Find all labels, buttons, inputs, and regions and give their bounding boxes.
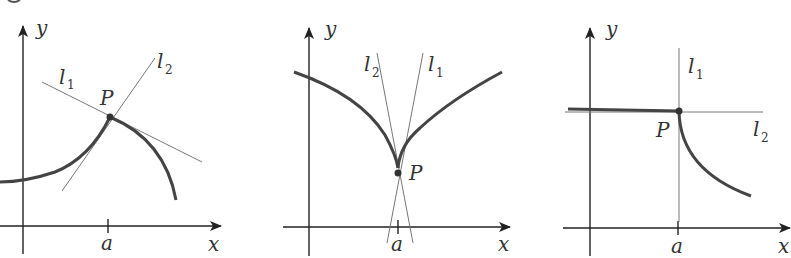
line-label-l2: l: [157, 49, 163, 73]
tick-label-a: a: [101, 231, 113, 255]
point-label-p: P: [99, 86, 114, 110]
panel-2: y x a P l 2 l 1: [283, 17, 510, 256]
curve-right-branch: [398, 72, 502, 168]
line-label-l2: l: [364, 52, 370, 76]
line-label-l1: l: [428, 52, 434, 76]
tick-label-a: a: [391, 232, 403, 256]
line-label-l2-subscript: 2: [372, 66, 380, 80]
tangent-line-l2: [377, 53, 413, 243]
panel-1: y x a P l 1 l 2: [0, 16, 221, 256]
curve-left-branch: [0, 117, 110, 182]
x-axis-label: x: [778, 234, 789, 258]
caption-fragment: [8, 0, 20, 2]
figure-canvas: y x a P l 1 l 2 y x a P l 2 l 1: [0, 0, 791, 258]
line-label-l1-subscript: 1: [67, 78, 75, 92]
line-label-l1: l: [59, 65, 65, 89]
curve-right-branch: [110, 117, 176, 200]
line-label-l2-subscript: 2: [761, 131, 769, 145]
point-p: [676, 108, 683, 115]
point-p: [107, 114, 114, 121]
y-axis-label: y: [324, 17, 337, 41]
line-label-l2: l: [753, 117, 759, 141]
point-label-p: P: [408, 161, 423, 185]
curve-left-branch: [568, 109, 679, 111]
panel-3: y x a P l 1 l 2: [563, 17, 790, 258]
line-label-l2-subscript: 2: [165, 63, 173, 77]
tick-label-a: a: [671, 234, 683, 258]
line-label-l1: l: [688, 54, 694, 78]
line-label-l1-subscript: 1: [696, 68, 704, 82]
curve-right-branch: [679, 111, 751, 196]
y-axis-label: y: [605, 17, 618, 41]
x-axis-label: x: [208, 232, 219, 256]
tangent-line-l2: [62, 58, 155, 191]
x-axis-label: x: [498, 232, 509, 256]
point-p: [395, 170, 402, 177]
line-label-l1-subscript: 1: [436, 66, 444, 80]
point-label-p: P: [655, 118, 670, 142]
y-axis-label: y: [35, 16, 48, 40]
